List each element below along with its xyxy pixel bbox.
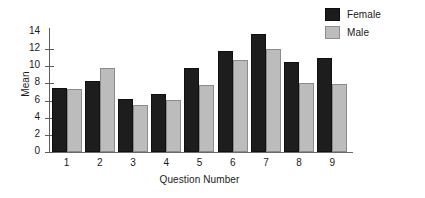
- bar-female-q7: [251, 34, 266, 152]
- bar-female-q2: [85, 81, 100, 152]
- x-axis-tick-label: 1: [50, 157, 83, 169]
- x-axis-tick-labels: 123456789: [50, 157, 349, 169]
- bar-male-q8: [299, 83, 314, 152]
- bar-male-q5: [199, 85, 214, 152]
- bar-male-q3: [133, 105, 148, 152]
- x-axis-tick-label: 6: [216, 157, 249, 169]
- y-axis-tick-label: 4: [34, 111, 40, 123]
- y-axis-tick-label: 0: [34, 145, 40, 157]
- y-axis-tick-label: 14: [29, 25, 40, 37]
- x-axis-title: Question Number: [50, 174, 349, 186]
- x-axis-tick-label: 7: [249, 157, 282, 169]
- bar-female-q6: [218, 51, 233, 152]
- bar-group: [216, 32, 249, 152]
- y-axis-tick-label: 2: [34, 128, 40, 140]
- bar-chart-figure: Female Male Mean 02468101214 123456789 Q…: [0, 0, 425, 198]
- bar-female-q3: [118, 99, 133, 152]
- x-axis-tick-label: 9: [316, 157, 349, 169]
- x-axis-tick-label: 4: [150, 157, 183, 169]
- bar-male-q9: [332, 84, 347, 152]
- bar-female-q8: [284, 62, 299, 152]
- bar-male-q2: [100, 68, 115, 152]
- x-axis-tick-label: 8: [283, 157, 316, 169]
- y-axis-tick-label: 10: [29, 59, 40, 71]
- bar-group: [183, 32, 216, 152]
- y-axis-tick-label: 12: [29, 42, 40, 54]
- bar-female-q1: [52, 88, 67, 152]
- legend-label-female: Female: [347, 9, 381, 21]
- bar-group: [116, 32, 149, 152]
- bar-group: [249, 32, 282, 152]
- bar-male-q7: [266, 49, 281, 152]
- bar-male-q6: [233, 60, 248, 152]
- x-axis-tick-label: 2: [83, 157, 116, 169]
- x-axis-tick-label: 5: [183, 157, 216, 169]
- bar-group: [83, 32, 116, 152]
- bar-female-q5: [184, 68, 199, 152]
- x-axis-tick-label: 3: [116, 157, 149, 169]
- bar-group: [283, 32, 316, 152]
- y-axis-tick-label: 6: [34, 94, 40, 106]
- bar-groups: [50, 32, 349, 152]
- bar-female-q9: [317, 58, 332, 152]
- y-axis-tick-label: 8: [34, 76, 40, 88]
- legend-label-male: Male: [347, 27, 369, 39]
- x-axis-line: [49, 152, 353, 153]
- bar-female-q4: [151, 94, 166, 152]
- bar-male-q4: [166, 100, 181, 152]
- y-axis-tick: 0: [45, 152, 54, 153]
- plot-area: 02468101214: [49, 32, 349, 153]
- legend-swatch-female-icon: [325, 8, 340, 21]
- bar-group: [150, 32, 183, 152]
- bar-male-q1: [67, 89, 82, 152]
- bar-group: [50, 32, 83, 152]
- legend-entry-female: Female: [325, 6, 411, 23]
- bar-group: [316, 32, 349, 152]
